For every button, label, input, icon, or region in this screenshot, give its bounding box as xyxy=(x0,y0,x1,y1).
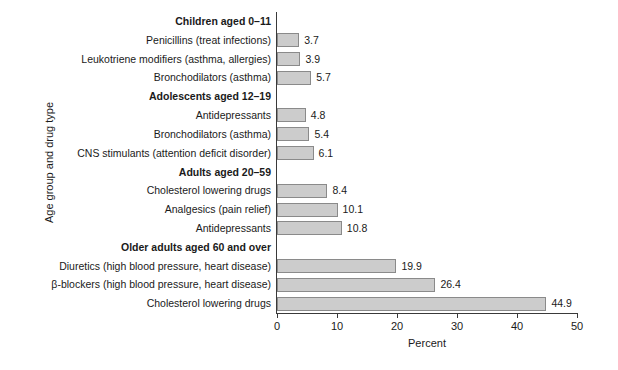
bar-row-label: Analgesics (pain relief) xyxy=(165,200,271,219)
bar xyxy=(277,221,342,235)
bar-row-label: Bronchodilators (asthma) xyxy=(154,68,271,87)
group-header-row: Adolescents aged 12–19 xyxy=(277,87,577,106)
x-axis-title: Percent xyxy=(277,337,577,349)
bar-row: Leukotriene modifiers (asthma, allergies… xyxy=(277,50,577,69)
bar xyxy=(277,146,314,160)
bar-row: Bronchodilators (asthma)5.4 xyxy=(277,125,577,144)
bar xyxy=(277,259,396,273)
bar-row-label: Leukotriene modifiers (asthma, allergies… xyxy=(81,50,271,69)
bar-value-label: 3.7 xyxy=(304,31,319,50)
x-axis-tick xyxy=(517,313,518,318)
bar-chart: Age group and drug type Children aged 0–… xyxy=(0,0,618,370)
x-axis-tick xyxy=(277,313,278,318)
x-axis-tick-label: 0 xyxy=(257,320,297,332)
bar-value-label: 26.4 xyxy=(440,275,460,294)
bar-row: Antidepressants4.8 xyxy=(277,106,577,125)
bar-row-label: Cholesterol lowering drugs xyxy=(147,294,271,313)
bar xyxy=(277,278,435,292)
bar-row-label: Antidepressants xyxy=(196,219,271,238)
bar-value-label: 3.9 xyxy=(305,50,320,69)
group-header-row: Older adults aged 60 and over xyxy=(277,238,577,257)
bar-row: β-blockers (high blood pressure, heart d… xyxy=(277,275,577,294)
bar-value-label: 4.8 xyxy=(311,106,326,125)
x-axis-tick xyxy=(577,313,578,318)
bar-value-label: 8.4 xyxy=(332,181,347,200)
bar xyxy=(277,33,299,47)
bar-row-label: Penicillins (treat infections) xyxy=(146,31,271,50)
x-axis-tick-label: 20 xyxy=(377,320,417,332)
bar-value-label: 6.1 xyxy=(319,144,334,163)
group-header-row: Children aged 0–11 xyxy=(277,12,577,31)
bar-row-label: Antidepressants xyxy=(196,106,271,125)
bar-row: CNS stimulants (attention deficit disord… xyxy=(277,144,577,163)
group-header-row: Adults aged 20–59 xyxy=(277,163,577,182)
bar-row: Antidepressants10.8 xyxy=(277,219,577,238)
bar xyxy=(277,297,546,311)
bar-row-label: β-blockers (high blood pressure, heart d… xyxy=(51,275,271,294)
bar xyxy=(277,108,306,122)
bar xyxy=(277,203,338,217)
bar-row-label: Cholesterol lowering drugs xyxy=(147,181,271,200)
bar-row: Analgesics (pain relief)10.1 xyxy=(277,200,577,219)
group-header-label: Adults aged 20–59 xyxy=(179,163,271,182)
x-axis-tick-label: 40 xyxy=(497,320,537,332)
x-axis-line xyxy=(276,313,578,314)
bar xyxy=(277,127,309,141)
bar-row-label: Diuretics (high blood pressure, heart di… xyxy=(59,257,271,276)
bar-row: Diuretics (high blood pressure, heart di… xyxy=(277,257,577,276)
bar-value-label: 5.7 xyxy=(316,68,331,87)
bar xyxy=(277,52,300,66)
bar-value-label: 10.8 xyxy=(347,219,367,238)
group-header-label: Children aged 0–11 xyxy=(175,12,271,31)
x-axis-tick-label: 30 xyxy=(437,320,477,332)
bar-value-label: 10.1 xyxy=(343,200,363,219)
group-header-label: Adolescents aged 12–19 xyxy=(149,87,271,106)
bar-value-label: 44.9 xyxy=(551,294,571,313)
bar-row-label: CNS stimulants (attention deficit disord… xyxy=(77,144,271,163)
group-header-label: Older adults aged 60 and over xyxy=(121,238,271,257)
x-axis-tick xyxy=(457,313,458,318)
x-axis-tick xyxy=(337,313,338,318)
bar-row: Penicillins (treat infections)3.7 xyxy=(277,31,577,50)
bar-value-label: 19.9 xyxy=(401,257,421,276)
x-axis-tick xyxy=(397,313,398,318)
plot-area: Children aged 0–11Penicillins (treat inf… xyxy=(277,12,577,313)
bar-value-label: 5.4 xyxy=(314,125,329,144)
y-axis-title: Age group and drug type xyxy=(40,12,58,313)
bar xyxy=(277,184,327,198)
x-axis-tick-label: 50 xyxy=(557,320,597,332)
bar-row-label: Bronchodilators (asthma) xyxy=(154,125,271,144)
x-axis-tick-label: 10 xyxy=(317,320,357,332)
bar-row: Cholesterol lowering drugs8.4 xyxy=(277,181,577,200)
bar-row: Cholesterol lowering drugs44.9 xyxy=(277,294,577,313)
bar-row: Bronchodilators (asthma)5.7 xyxy=(277,68,577,87)
bar xyxy=(277,71,311,85)
